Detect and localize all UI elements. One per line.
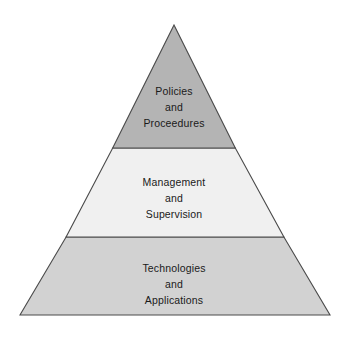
tier-top-line-3: Proceedures <box>143 117 204 129</box>
tier-middle-line-3: Supervision <box>146 208 203 220</box>
pyramid-diagram: Policies and Proceedures Management and … <box>0 0 350 341</box>
tier-bottom-line-3: Applications <box>145 294 203 306</box>
pyramid-svg: Policies and Proceedures Management and … <box>0 0 350 341</box>
tier-top-line-2: and <box>165 101 183 113</box>
tier-bottom-line-1: Technologies <box>142 262 205 274</box>
tier-top-line-1: Policies <box>155 85 192 97</box>
tier-middle-line-1: Management <box>143 176 206 188</box>
tier-middle-line-2: and <box>165 192 183 204</box>
tier-bottom-line-2: and <box>165 278 183 290</box>
